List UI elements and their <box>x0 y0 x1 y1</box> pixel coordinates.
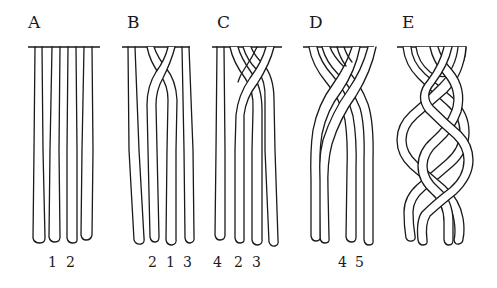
panel-b-strands <box>128 47 194 245</box>
panel-c-strands <box>215 47 278 246</box>
panel-label-c: C <box>217 14 230 31</box>
panel-label-e: E <box>402 14 414 31</box>
strand-number-a-2: 2 <box>66 255 75 269</box>
strand-number-a-1: 1 <box>48 255 57 269</box>
strand-number-d-4: 4 <box>338 255 347 269</box>
panel-d-strands <box>309 47 376 245</box>
panel-label-d: D <box>309 14 323 31</box>
panel-e-strands <box>397 47 473 245</box>
panel-label-b: B <box>127 14 140 31</box>
braid-diagram: A B C D E 1 2 2 1 3 4 2 3 4 5 <box>0 0 497 288</box>
strand-number-c-2: 2 <box>234 255 243 269</box>
strand-number-c-3: 3 <box>252 255 261 269</box>
panel-a-strands <box>33 47 93 243</box>
strand-number-d-5: 5 <box>355 255 364 269</box>
strand-number-c-4: 4 <box>213 255 222 269</box>
panel-label-a: A <box>28 14 40 31</box>
braid-figure <box>0 0 497 288</box>
strand-number-b-3: 3 <box>183 255 192 269</box>
strand-number-b-1: 1 <box>166 255 175 269</box>
strand-number-b-2: 2 <box>148 255 157 269</box>
